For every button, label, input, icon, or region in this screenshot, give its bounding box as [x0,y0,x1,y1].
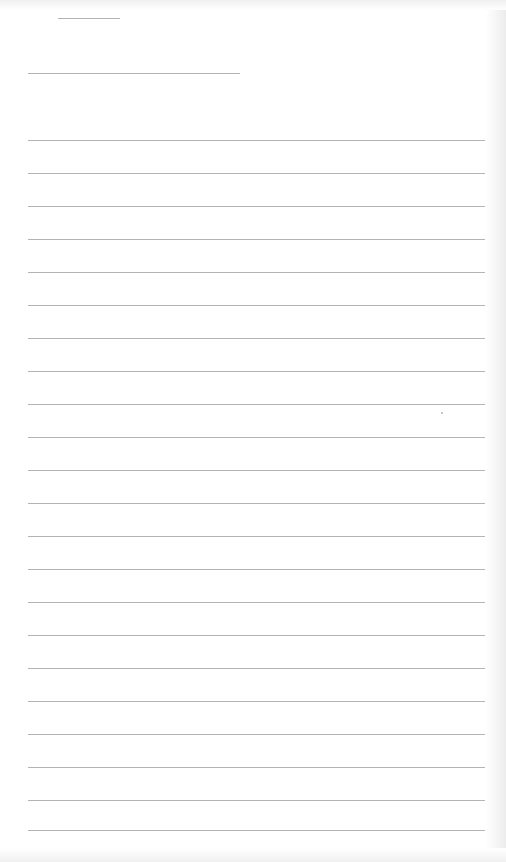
ruled-line [28,602,485,603]
ruled-line [28,701,485,702]
ruled-lines-container [0,0,506,862]
ruled-line [28,305,485,306]
speck-mark [441,412,443,414]
ruled-line [28,206,485,207]
ruled-line [28,470,485,471]
ruled-line [28,536,485,537]
ruled-line [28,239,485,240]
ruled-line [28,635,485,636]
ruled-line [28,503,485,504]
ruled-line [28,272,485,273]
ruled-line [28,338,485,339]
ruled-line [28,569,485,570]
ruled-line [28,668,485,669]
ruled-line [28,140,485,141]
ruled-line [28,830,485,831]
lined-paper-page [0,0,506,862]
ruled-line [28,734,485,735]
ruled-line [28,404,485,405]
ruled-line [28,437,485,438]
ruled-line [28,173,485,174]
bottom-shadow [0,848,506,862]
ruled-line [28,767,485,768]
ruled-line [28,800,485,801]
ruled-line [28,371,485,372]
